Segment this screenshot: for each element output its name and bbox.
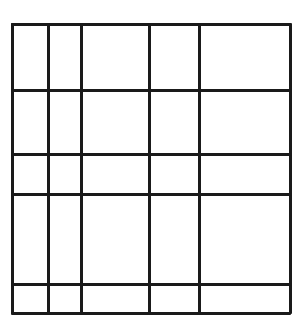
grid-vertical-line-3 [148,23,151,314]
grid-horizontal-line-1 [11,89,291,92]
grid-horizontal-line-0 [11,23,291,26]
grid-vertical-line-5 [289,23,292,314]
grid-horizontal-line-5 [11,312,291,315]
grid-vertical-line-4 [198,23,201,314]
grid-vertical-line-2 [80,23,83,314]
grid-horizontal-line-2 [11,153,291,156]
grid-horizontal-line-3 [11,193,291,196]
grid-vertical-line-0 [11,23,14,314]
grid-vertical-line-1 [47,23,50,314]
grid-horizontal-line-4 [11,283,291,286]
grid-diagram [0,0,297,332]
